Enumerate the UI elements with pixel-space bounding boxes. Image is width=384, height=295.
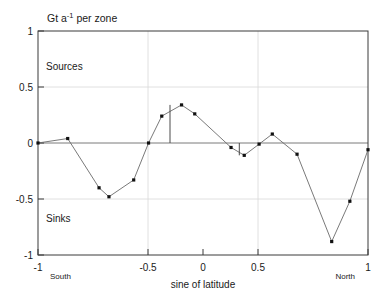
data-point-marker <box>160 115 163 118</box>
data-point-marker <box>107 195 110 198</box>
data-point-marker <box>229 146 232 149</box>
y-tick-label-0: 0 <box>27 138 33 149</box>
sinks-label: Sinks <box>46 213 70 224</box>
data-point-marker <box>258 143 261 146</box>
data-point-marker <box>295 153 298 156</box>
data-point-marker <box>330 240 333 243</box>
chart-title-lead: Gt a <box>47 12 67 24</box>
chart-background <box>0 0 384 295</box>
data-point-marker <box>147 141 150 144</box>
y-tick-label-0.5: 0.5 <box>19 82 33 93</box>
data-point-marker <box>271 132 274 135</box>
chart-figure: Gt a-1 per zone <box>0 0 384 295</box>
x-tick-label-1: 1 <box>365 262 371 273</box>
data-point-marker <box>132 178 135 181</box>
data-point-marker <box>348 200 351 203</box>
y-tick-label-1: 1 <box>27 26 33 37</box>
x-axis-label: sine of latitude <box>171 279 236 290</box>
zonal-flux-line-chart: Gt a-1 per zone <box>0 0 384 295</box>
north-label: North <box>335 272 355 281</box>
chart-title: Gt a-1 per zone <box>47 11 117 24</box>
x-tick-label--0.5: -0.5 <box>139 262 157 273</box>
y-tick-label--0.5: -0.5 <box>16 194 34 205</box>
chart-title-superscript: -1 <box>67 11 74 20</box>
sources-label: Sources <box>46 61 83 72</box>
x-tick-label-0: 0 <box>200 262 206 273</box>
y-tick-label--1: -1 <box>24 250 33 261</box>
chart-title-tail: per zone <box>74 12 118 24</box>
data-point-marker <box>193 112 196 115</box>
x-tick-label-0.5: 0.5 <box>251 262 265 273</box>
x-tick-label--1: -1 <box>34 262 43 273</box>
data-point-marker <box>36 141 39 144</box>
data-point-marker <box>243 154 246 157</box>
data-point-marker <box>97 186 100 189</box>
south-label: South <box>50 272 71 281</box>
data-point-marker <box>180 103 183 106</box>
data-point-marker <box>366 148 369 151</box>
data-point-marker <box>66 137 69 140</box>
